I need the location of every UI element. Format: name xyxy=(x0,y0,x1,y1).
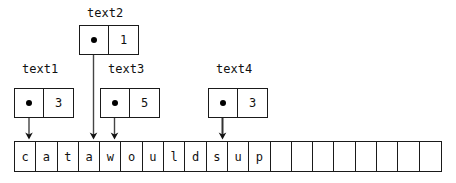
array-cell-3: a xyxy=(79,142,100,171)
array-cell-1: a xyxy=(36,142,57,171)
array-cell-5: o xyxy=(121,142,142,171)
node-label-text4: text4 xyxy=(216,62,252,76)
value-cell-text4: 3 xyxy=(238,89,267,117)
node-label-text2: text2 xyxy=(87,6,123,20)
array-cell-19 xyxy=(420,142,441,171)
node-label-text3: text3 xyxy=(108,62,144,76)
array-cell-12 xyxy=(271,142,292,171)
array-cell-0: c xyxy=(15,142,36,171)
diagram-canvas: text1 3 text2 1 text3 5 text4 3 catawoul… xyxy=(0,0,456,183)
value-cell-text2: 1 xyxy=(109,26,138,54)
pointer-dot-icon xyxy=(26,100,32,106)
node-label-text1: text1 xyxy=(22,62,58,76)
pointer-dot-icon xyxy=(220,100,226,106)
array-cell-15 xyxy=(334,142,355,171)
array-cell-10: u xyxy=(228,142,249,171)
pointer-cell-text4 xyxy=(209,89,238,117)
character-array: catawouldsup xyxy=(14,141,442,172)
array-cell-8: d xyxy=(185,142,206,171)
array-cell-18 xyxy=(398,142,419,171)
array-cell-2: t xyxy=(58,142,79,171)
pointer-cell-text3 xyxy=(101,89,130,117)
value-cell-text1: 3 xyxy=(44,89,73,117)
array-cell-7: l xyxy=(164,142,185,171)
value-cell-text3: 5 xyxy=(130,89,159,117)
pointer-cell-text1 xyxy=(15,89,44,117)
array-cell-14 xyxy=(313,142,334,171)
array-cell-9: s xyxy=(207,142,228,171)
pointer-cell-text2 xyxy=(80,26,109,54)
pointer-node-text1[interactable]: 3 xyxy=(14,88,74,118)
array-cell-4: w xyxy=(100,142,121,171)
array-cell-16 xyxy=(356,142,377,171)
pointer-dot-icon xyxy=(91,37,97,43)
array-cell-6: u xyxy=(143,142,164,171)
pointer-node-text3[interactable]: 5 xyxy=(100,88,160,118)
array-cell-17 xyxy=(377,142,398,171)
pointer-node-text4[interactable]: 3 xyxy=(208,88,268,118)
array-cell-11: p xyxy=(249,142,270,171)
pointer-dot-icon xyxy=(112,100,118,106)
array-cell-13 xyxy=(292,142,313,171)
pointer-node-text2[interactable]: 1 xyxy=(79,25,139,55)
